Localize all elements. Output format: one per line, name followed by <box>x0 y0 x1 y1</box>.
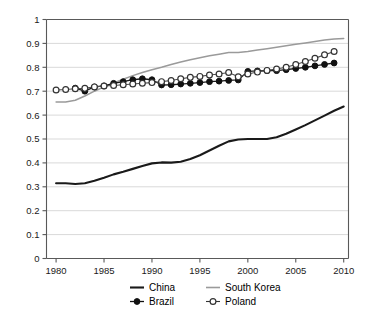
data-point <box>101 83 107 89</box>
data-point <box>197 80 203 86</box>
data-point <box>216 71 222 77</box>
plot-axes <box>43 20 349 263</box>
data-point <box>226 78 232 84</box>
x-axis-tick-labels: 1980198519901995200020052010 <box>46 265 355 276</box>
data-point <box>130 81 136 87</box>
legend-item-china[interactable]: China <box>130 282 176 293</box>
y-tick-label: 0 <box>34 253 39 264</box>
data-point <box>264 68 270 74</box>
legend-marker-open-circle <box>210 299 216 305</box>
legend-marker-filled-circle <box>134 299 140 305</box>
data-point <box>187 80 193 86</box>
data-point <box>149 80 155 86</box>
data-point <box>235 74 241 80</box>
y-tick-label: 0.4 <box>26 157 39 168</box>
data-point <box>293 62 299 68</box>
data-point <box>159 79 165 85</box>
series-south-korea <box>56 39 344 102</box>
x-tick-label: 2000 <box>237 265 258 276</box>
data-point <box>274 66 280 72</box>
data-point <box>82 85 88 91</box>
legend-item-brazil[interactable]: Brazil <box>130 296 174 307</box>
data-point <box>111 83 117 89</box>
x-tick-label: 1985 <box>93 265 114 276</box>
data-point <box>92 84 98 90</box>
legend-item-south-korea[interactable]: South Korea <box>206 282 281 293</box>
data-point <box>322 52 328 58</box>
x-tick-label: 1980 <box>46 265 67 276</box>
data-point <box>207 79 213 85</box>
series-line <box>56 39 344 102</box>
data-point <box>312 55 318 61</box>
y-tick-label: 1 <box>34 14 39 25</box>
data-point <box>255 69 261 75</box>
y-axis-tick-labels: 00.10.20.30.40.50.60.70.80.91 <box>26 14 39 264</box>
data-point <box>312 63 318 69</box>
data-point <box>207 72 213 78</box>
legend-item-poland[interactable]: Poland <box>206 296 256 307</box>
data-point <box>72 86 78 92</box>
y-tick-label: 0.5 <box>26 133 39 144</box>
y-tick-label: 0.9 <box>26 38 39 49</box>
data-point <box>226 70 232 76</box>
data-point <box>331 60 337 66</box>
line-chart: 00.10.20.30.40.50.60.70.80.91 1980198519… <box>0 0 373 326</box>
series-line <box>56 52 334 90</box>
data-point <box>178 76 184 82</box>
series-china <box>56 107 344 184</box>
legend-label: South Korea <box>225 282 281 293</box>
chart-legend: ChinaSouth KoreaBrazilPoland <box>130 282 281 307</box>
data-point <box>216 78 222 84</box>
legend-label: Poland <box>225 296 256 307</box>
y-tick-label: 0.1 <box>26 229 39 240</box>
data-point <box>302 64 308 70</box>
y-tick-label: 0.2 <box>26 205 39 216</box>
chart-container: 00.10.20.30.40.50.60.70.80.91 1980198519… <box>0 0 373 326</box>
y-tick-label: 0.6 <box>26 110 39 121</box>
data-point <box>120 82 126 88</box>
data-series-layer <box>53 39 344 184</box>
data-point <box>322 62 328 68</box>
data-point <box>197 73 203 79</box>
x-tick-label: 2005 <box>285 265 306 276</box>
data-point <box>63 87 69 93</box>
y-tick-label: 0.7 <box>26 86 39 97</box>
legend-label: Brazil <box>149 296 174 307</box>
data-point <box>245 71 251 77</box>
x-tick-label: 1990 <box>141 265 162 276</box>
data-point <box>187 74 193 80</box>
data-point <box>302 59 308 65</box>
legend-label: China <box>149 282 176 293</box>
x-tick-label: 1995 <box>189 265 210 276</box>
data-point <box>283 64 289 70</box>
data-point <box>53 87 59 93</box>
y-tick-label: 0.8 <box>26 62 39 73</box>
series-line <box>56 107 344 184</box>
data-point <box>331 49 337 55</box>
y-tick-label: 0.3 <box>26 181 39 192</box>
data-point <box>139 80 145 86</box>
x-tick-label: 2010 <box>333 265 354 276</box>
data-point <box>168 78 174 84</box>
